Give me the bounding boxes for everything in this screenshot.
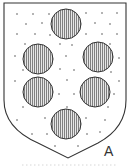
figure-label: A (104, 144, 113, 158)
roundel-middle-right (83, 42, 113, 72)
shield-figure (0, 0, 130, 167)
roundel-top (51, 9, 81, 39)
roundel-middle-left (23, 44, 53, 74)
roundel-lower-right (80, 77, 110, 107)
roundel-bottom (51, 109, 81, 139)
roundel-lower-left (23, 77, 53, 107)
